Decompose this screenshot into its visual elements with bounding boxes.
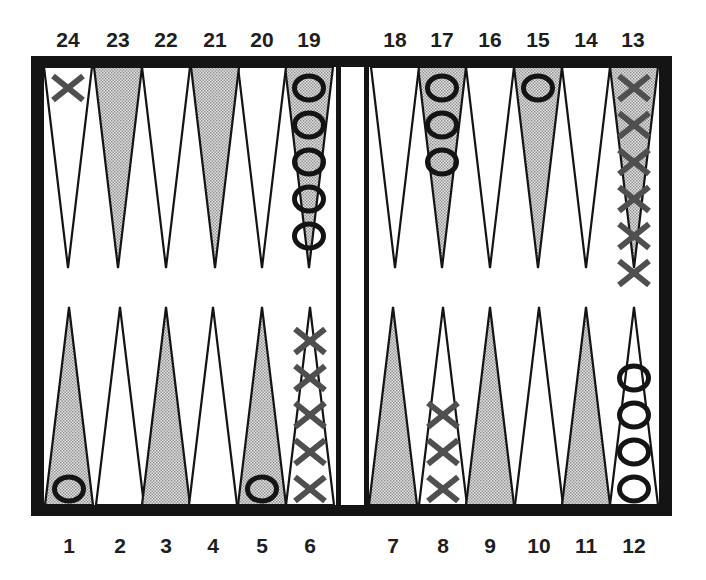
point-label-10: 10	[519, 535, 559, 556]
backgammon-board	[0, 0, 706, 580]
point-label-2: 2	[100, 535, 140, 556]
point-label-1: 1	[49, 535, 89, 556]
point-label-11: 11	[566, 535, 606, 556]
point-label-9: 9	[470, 535, 510, 556]
right-board-half	[369, 67, 659, 505]
point-label-8: 8	[423, 535, 463, 556]
bar[interactable]	[341, 67, 364, 505]
point-label-4: 4	[193, 535, 233, 556]
point-label-3: 3	[146, 535, 186, 556]
point-label-12: 12	[614, 535, 654, 556]
point-label-6: 6	[290, 535, 330, 556]
point-label-5: 5	[242, 535, 282, 556]
point-label-7: 7	[373, 535, 413, 556]
